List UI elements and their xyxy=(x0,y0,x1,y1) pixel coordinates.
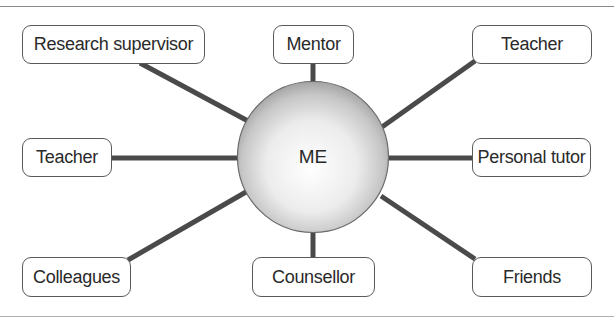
node-teacher-top-right: Teacher xyxy=(472,25,592,64)
connector-research-supervisor xyxy=(140,63,248,121)
node-research-supervisor: Research supervisor xyxy=(22,25,205,64)
connector-teacher-top-right xyxy=(382,61,475,127)
node-friends: Friends xyxy=(472,257,592,297)
node-colleagues: Colleagues xyxy=(22,257,131,297)
center-label: ME xyxy=(237,81,389,233)
node-counsellor: Counsellor xyxy=(252,257,375,297)
connector-friends xyxy=(381,196,475,259)
node-personal-tutor: Personal tutor xyxy=(472,138,591,177)
connector-colleagues xyxy=(128,192,246,260)
bottom-divider xyxy=(0,316,614,317)
node-mentor: Mentor xyxy=(273,25,354,64)
node-teacher-left: Teacher xyxy=(22,138,112,177)
